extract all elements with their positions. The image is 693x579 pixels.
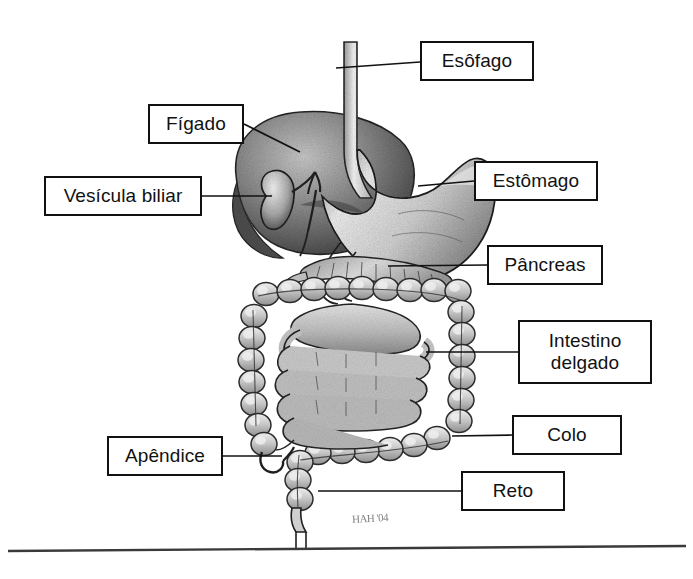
label-figado[interactable]: Fígado bbox=[148, 104, 244, 144]
label-esofago[interactable]: Esôfago bbox=[420, 41, 534, 81]
label-pancreas[interactable]: Pâncreas bbox=[487, 245, 603, 285]
label-apendice[interactable]: Apêndice bbox=[107, 436, 223, 476]
small-intestine-organ bbox=[275, 304, 430, 450]
footer-rule bbox=[8, 546, 686, 551]
label-reto[interactable]: Reto bbox=[461, 471, 565, 511]
digestive-system-figure bbox=[0, 0, 693, 579]
label-colo[interactable]: Colo bbox=[512, 415, 622, 455]
label-estomago[interactable]: Estômago bbox=[474, 161, 598, 201]
leader-colo bbox=[452, 435, 512, 436]
artist-signature: HAH '04 bbox=[352, 511, 389, 525]
leader-pancreas bbox=[388, 265, 487, 266]
label-vesicula-biliar[interactable]: Vesícula biliar bbox=[44, 176, 202, 216]
label-intestino-delgado[interactable]: Intestino delgado bbox=[518, 320, 652, 384]
